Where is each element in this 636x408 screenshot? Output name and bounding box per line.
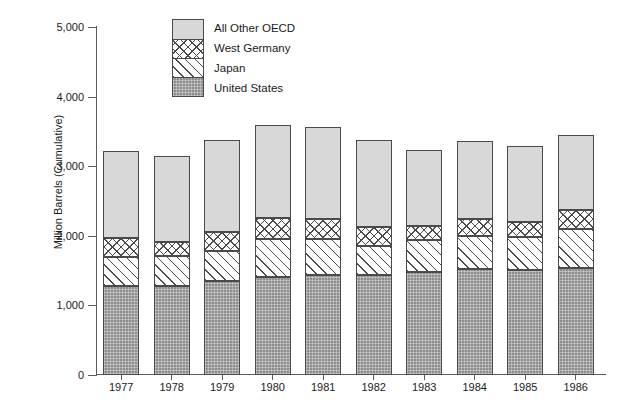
- stacked-bar[interactable]: [204, 140, 240, 375]
- chart-figure: Million Barrels (Cumulative) 01,0002,000…: [0, 0, 636, 408]
- bar-segment-united-states[interactable]: [356, 275, 392, 375]
- bar-group-1986[interactable]: [558, 27, 594, 375]
- bar-group-1984[interactable]: [457, 27, 493, 375]
- bar-segment-west-germany[interactable]: [154, 242, 190, 257]
- bar-segment-japan[interactable]: [356, 246, 392, 275]
- y-axis-tick-label: 2,000: [24, 231, 84, 242]
- y-axis-tick-label: 1,000: [24, 300, 84, 311]
- x-axis-tick: [121, 375, 122, 380]
- legend-label-all-other-oecd: All Other OECD: [214, 19, 295, 38]
- bar-segment-japan[interactable]: [507, 237, 543, 270]
- x-axis-tick: [424, 375, 425, 380]
- stacked-bar[interactable]: [406, 150, 442, 375]
- bar-segment-japan[interactable]: [204, 251, 240, 281]
- bar-segment-west-germany[interactable]: [204, 232, 240, 251]
- bar-segment-united-states[interactable]: [507, 270, 543, 375]
- x-axis-tick: [525, 375, 526, 380]
- bar-segment-all-other-oecd[interactable]: [356, 140, 392, 227]
- legend-label-west-germany: West Germany: [214, 39, 290, 58]
- bar-segment-west-germany[interactable]: [103, 238, 139, 257]
- y-axis-tick-label: 0: [24, 370, 84, 381]
- bar-segment-japan[interactable]: [103, 257, 139, 286]
- x-axis-label-1986: 1986: [546, 381, 606, 393]
- stacked-bar[interactable]: [103, 151, 139, 375]
- bar-segment-west-germany[interactable]: [507, 222, 543, 237]
- bar-segment-all-other-oecd[interactable]: [305, 127, 341, 219]
- legend-label-japan: Japan: [214, 59, 245, 78]
- bar-segment-united-states[interactable]: [204, 281, 240, 375]
- bar-segment-all-other-oecd[interactable]: [154, 156, 190, 242]
- bar-segment-japan[interactable]: [406, 240, 442, 272]
- bar-segment-west-germany[interactable]: [255, 218, 291, 239]
- bar-segment-all-other-oecd[interactable]: [406, 150, 442, 227]
- bar-segment-west-germany[interactable]: [356, 227, 392, 246]
- stacked-bar[interactable]: [507, 146, 543, 375]
- y-axis-title: Million Barrels (Cumulative): [52, 82, 64, 282]
- bar-group-1982[interactable]: [356, 27, 392, 375]
- y-axis-tick: [88, 375, 97, 376]
- bar-group-1981[interactable]: [305, 27, 341, 375]
- bar-segment-united-states[interactable]: [255, 277, 291, 375]
- bar-segment-japan[interactable]: [457, 236, 493, 269]
- stacked-bar[interactable]: [154, 156, 190, 375]
- legend-swatch-west-germany: [173, 39, 203, 58]
- legend-swatch-japan: [173, 58, 203, 77]
- bar-segment-united-states[interactable]: [558, 268, 594, 375]
- x-axis-tick: [171, 375, 172, 380]
- bar-group-1983[interactable]: [406, 27, 442, 375]
- x-axis-tick: [222, 375, 223, 380]
- x-axis-tick: [272, 375, 273, 380]
- x-axis-tick: [474, 375, 475, 380]
- bar-segment-all-other-oecd[interactable]: [507, 146, 543, 222]
- bar-segment-united-states[interactable]: [457, 269, 493, 375]
- y-axis-tick-label: 4,000: [24, 92, 84, 103]
- bar-segment-all-other-oecd[interactable]: [255, 125, 291, 219]
- stacked-bar[interactable]: [356, 140, 392, 375]
- bar-segment-all-other-oecd[interactable]: [103, 151, 139, 237]
- bar-segment-japan[interactable]: [255, 239, 291, 277]
- bar-segment-united-states[interactable]: [305, 275, 341, 375]
- bar-group-1977[interactable]: [103, 27, 139, 375]
- y-axis-tick-label: 5,000: [24, 22, 84, 33]
- legend-swatch-all-other-oecd: [173, 20, 203, 39]
- bar-segment-west-germany[interactable]: [558, 210, 594, 228]
- bar-segment-japan[interactable]: [154, 256, 190, 286]
- legend-label-united-states: United States: [214, 79, 283, 98]
- bar-segment-united-states[interactable]: [406, 272, 442, 375]
- bar-segment-west-germany[interactable]: [457, 219, 493, 236]
- stacked-bar[interactable]: [457, 141, 493, 375]
- y-axis-tick-label: 3,000: [24, 161, 84, 172]
- x-axis-tick: [575, 375, 576, 380]
- bar-segment-united-states[interactable]: [103, 286, 139, 375]
- bar-group-1985[interactable]: [507, 27, 543, 375]
- bar-segment-all-other-oecd[interactable]: [204, 140, 240, 232]
- stacked-bar[interactable]: [558, 135, 594, 375]
- bar-segment-united-states[interactable]: [154, 286, 190, 375]
- bar-segment-japan[interactable]: [558, 229, 594, 268]
- stacked-bar[interactable]: [255, 125, 291, 375]
- legend-swatch-stack: [172, 19, 204, 97]
- legend-swatch-united-states: [173, 77, 203, 96]
- bar-segment-japan[interactable]: [305, 239, 341, 275]
- x-axis-tick: [373, 375, 374, 380]
- bar-segment-west-germany[interactable]: [406, 226, 442, 240]
- bar-segment-all-other-oecd[interactable]: [457, 141, 493, 219]
- stacked-bar[interactable]: [305, 127, 341, 375]
- bar-segment-all-other-oecd[interactable]: [558, 135, 594, 210]
- x-axis-tick: [323, 375, 324, 380]
- bar-segment-west-germany[interactable]: [305, 219, 341, 239]
